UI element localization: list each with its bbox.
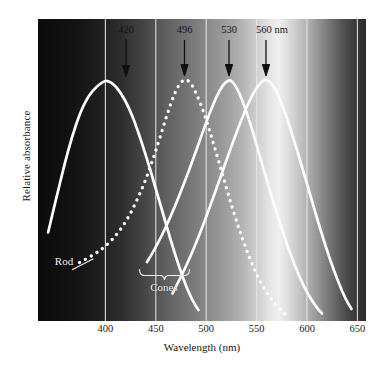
- peak-label-560: 560 nm: [256, 24, 288, 35]
- peak-label-496: 496: [177, 24, 193, 35]
- curve-l-cone-560: [173, 80, 352, 309]
- arrow-496: [181, 40, 188, 76]
- plot-panel: Rod Cones: [38, 19, 366, 321]
- spectral-absorbance-figure: Relative absorbance: [0, 0, 375, 366]
- x-tick-label-450: 450: [148, 323, 164, 334]
- arrow-560: [262, 40, 269, 76]
- peak-arrows: [122, 39, 269, 77]
- x-tick-label-400: 400: [98, 323, 114, 334]
- x-tick-label-650: 650: [350, 323, 366, 334]
- x-tick-label-600: 600: [299, 323, 315, 334]
- peak-label-530: 530: [221, 24, 237, 35]
- rod-leader-line: [73, 259, 94, 270]
- x-tick-label-550: 550: [249, 323, 265, 334]
- plot-canvas: [38, 19, 366, 321]
- y-axis-title: Relative absorbance: [20, 56, 32, 256]
- annotation-cones-label: Cones: [150, 281, 178, 293]
- arrow-420: [122, 39, 129, 77]
- arrow-530: [225, 40, 232, 76]
- annotation-rod-label: Rod: [55, 255, 73, 267]
- x-tick-label-500: 500: [198, 323, 214, 334]
- x-axis-title: Wavelength (nm): [38, 341, 366, 353]
- peak-label-420: 420: [118, 24, 134, 35]
- curve-m-cone-530: [147, 80, 322, 313]
